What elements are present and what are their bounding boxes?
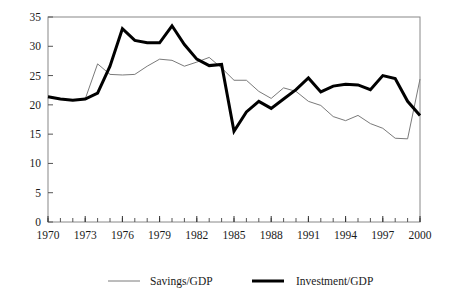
x-tick-label: 1997 bbox=[371, 229, 394, 241]
y-tick-label: 5 bbox=[35, 187, 41, 199]
x-tick-label: 1985 bbox=[223, 229, 246, 241]
y-tick-label: 25 bbox=[30, 70, 42, 82]
x-tick-label: 1976 bbox=[111, 229, 134, 241]
y-tick-label: 20 bbox=[30, 99, 42, 111]
chart-legend: Savings/GDPInvestment/GDP bbox=[108, 275, 373, 288]
x-tick-label: 1973 bbox=[74, 229, 97, 241]
chart-page: 05101520253035 1970197319761979198219851… bbox=[0, 0, 457, 302]
y-axis-tick-labels: 05101520253035 bbox=[30, 11, 42, 228]
legend-label-1: Savings/GDP bbox=[150, 275, 213, 288]
y-tick-label: 0 bbox=[35, 216, 41, 228]
y-tick-label: 15 bbox=[30, 128, 42, 140]
x-tick-label: 1979 bbox=[148, 229, 171, 241]
y-tick-label: 10 bbox=[30, 157, 42, 169]
legend-label-2: Investment/GDP bbox=[296, 275, 373, 287]
x-tick-label: 1991 bbox=[297, 229, 320, 241]
y-tick-label: 30 bbox=[30, 40, 42, 52]
x-axis-tick-labels: 1970197319761979198219851988199119941997… bbox=[37, 229, 432, 241]
x-tick-label: 2000 bbox=[409, 229, 432, 241]
savings-investment-line-chart: 05101520253035 1970197319761979198219851… bbox=[0, 0, 457, 302]
y-tick-label: 35 bbox=[30, 11, 42, 23]
x-tick-label: 1988 bbox=[260, 229, 283, 241]
x-tick-label: 1994 bbox=[334, 229, 357, 241]
x-tick-label: 1970 bbox=[37, 229, 60, 241]
x-tick-label: 1982 bbox=[185, 229, 208, 241]
